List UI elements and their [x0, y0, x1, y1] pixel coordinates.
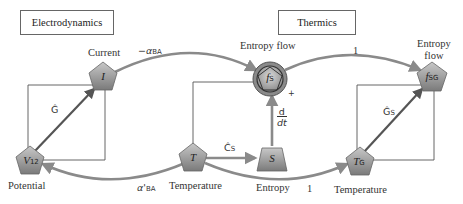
coef-gs-hat: ĜS [383, 106, 395, 117]
temperature-g-label: Temperature [334, 184, 387, 195]
coef-d-dt: ddt [277, 106, 287, 128]
entropy-label: Entropy [256, 182, 290, 193]
coef-cs-hat: ĈS [224, 142, 235, 153]
coef-t-to-tg: 1 [307, 183, 312, 194]
potential-label: Potential [8, 180, 45, 191]
temperature-g-symbol: TG [348, 155, 370, 167]
current-symbol: I [96, 70, 110, 82]
coef-g-hat: Ĝ [51, 104, 58, 115]
entropy-symbol: S [265, 152, 279, 164]
coef-minus-alpha-ba: −αBA [138, 45, 162, 56]
coef-alpha-prime-ba: α'BA [137, 182, 155, 193]
thermics-box: Thermics [278, 10, 356, 35]
entropy-flow-sg-symbol: fSG [420, 70, 444, 82]
temperature-label: Temperature [169, 180, 222, 191]
current-label: Current [88, 47, 120, 58]
electrodynamics-box: Electrodynamics [20, 10, 114, 35]
thermics-label: Thermics [297, 17, 337, 28]
temperature-symbol: T [186, 151, 200, 163]
potential-symbol: V12 [20, 154, 42, 166]
entropy-flow-symbol: fS [260, 71, 280, 83]
plus-sign: + [288, 89, 295, 98]
coef-fs-to-fsg: 1 [353, 45, 358, 56]
electrodynamics-label: Electrodynamics [32, 17, 103, 28]
entropy-flow-sg-label: Entropyflow [417, 38, 451, 62]
entropy-flow-label: Entropy flow [240, 40, 296, 51]
